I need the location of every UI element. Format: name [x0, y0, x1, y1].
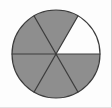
fraction-circle-diagram	[0, 0, 112, 108]
figure-canvas	[0, 0, 112, 108]
frame-bottom-edge	[0, 107, 112, 108]
frame-right-edge	[111, 0, 112, 108]
